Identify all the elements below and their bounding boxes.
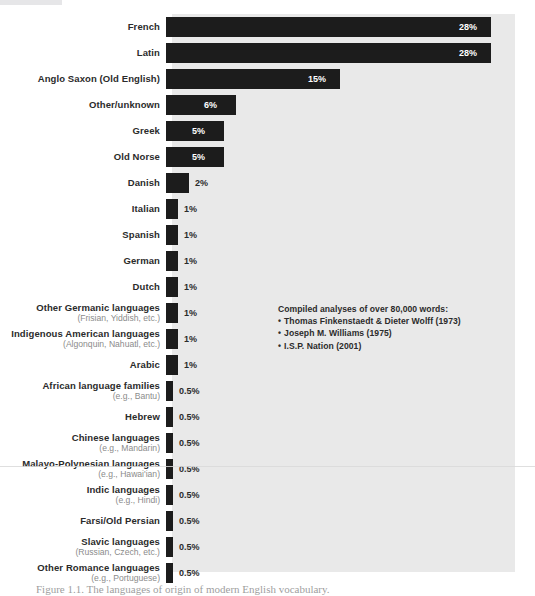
category-label-main: Danish — [0, 178, 160, 188]
category-label: Danish — [0, 178, 166, 188]
bar-row: Latin28% — [0, 40, 535, 66]
category-label-main: French — [0, 22, 160, 32]
bar-row: Arabic1% — [0, 352, 535, 378]
category-label-sub: (Frisian, Yiddish, etc.) — [0, 314, 160, 323]
category-label: Chinese languages(e.g., Mandarin) — [0, 433, 166, 452]
category-label: Other Romance languages(e.g., Portuguese… — [0, 563, 166, 582]
bar-row: German1% — [0, 248, 535, 274]
category-label: Other/unknown — [0, 100, 166, 110]
category-label: Italian — [0, 204, 166, 214]
bar — [166, 485, 173, 505]
bar — [166, 43, 491, 63]
bar-row: Dutch1% — [0, 274, 535, 300]
category-label-main: Hebrew — [0, 412, 160, 422]
bar — [166, 459, 173, 479]
category-label-sub: (e.g., Mandarin) — [0, 444, 160, 453]
bar — [166, 225, 178, 245]
bar-value-label: 1% — [184, 300, 197, 326]
category-label-main: Chinese languages — [0, 433, 160, 443]
category-label-main: Farsi/Old Persian — [0, 516, 160, 526]
category-label-main: Old Norse — [0, 152, 160, 162]
category-label-main: Indigenous American languages — [0, 329, 160, 339]
category-label: Latin — [0, 48, 166, 58]
bar-cell: 1% — [166, 274, 535, 300]
figure-caption: Figure 1.1. The languages of origin of m… — [36, 583, 506, 596]
category-label: Other Germanic languages(Frisian, Yiddis… — [0, 303, 166, 322]
category-label-sub: (e.g., Hindi) — [0, 496, 160, 505]
bar — [166, 277, 178, 297]
source-annotation-item: I.S.P. Nation (2001) — [278, 340, 461, 352]
category-label: French — [0, 22, 166, 32]
category-label-sub: (e.g., Bantu) — [0, 392, 160, 401]
category-label: Farsi/Old Persian — [0, 516, 166, 526]
bar-cell: 15% — [166, 66, 535, 92]
category-label-main: Dutch — [0, 282, 160, 292]
bar — [166, 355, 178, 375]
category-label: Hebrew — [0, 412, 166, 422]
bar-value-label: 1% — [184, 196, 197, 222]
bar-row: Danish2% — [0, 170, 535, 196]
bar-row: Chinese languages(e.g., Mandarin)0.5% — [0, 430, 535, 456]
category-label-main: Anglo Saxon (Old English) — [0, 74, 160, 84]
bar — [166, 381, 173, 401]
bar-cell: 0.5% — [166, 430, 535, 456]
bar — [166, 251, 178, 271]
bar-cell: 2% — [166, 170, 535, 196]
bar-row: Malayo-Polynesian languages(e.g., Hawai'… — [0, 456, 535, 482]
bar — [166, 433, 173, 453]
bar-value-label: 0.5% — [179, 534, 200, 560]
bar-cell: 0.5% — [166, 378, 535, 404]
bar-row: Spanish1% — [0, 222, 535, 248]
bar-cell: 0.5% — [166, 508, 535, 534]
category-label: German — [0, 256, 166, 266]
bar — [166, 17, 491, 37]
category-label-main: Latin — [0, 48, 160, 58]
category-label: Greek — [0, 126, 166, 136]
bar-row: Farsi/Old Persian0.5% — [0, 508, 535, 534]
bar-value-label: 1% — [184, 222, 197, 248]
category-label: Indigenous American languages(Algonquin,… — [0, 329, 166, 348]
bar-cell: 0.5% — [166, 404, 535, 430]
bar-value-label: 1% — [184, 352, 197, 378]
category-label-main: Italian — [0, 204, 160, 214]
bar-value-label: 5% — [192, 144, 205, 170]
bar-row: Old Norse5% — [0, 144, 535, 170]
bar-cell: 1% — [166, 352, 535, 378]
category-label-main: Greek — [0, 126, 160, 136]
bar — [166, 407, 173, 427]
bar-cell: 0.5% — [166, 482, 535, 508]
category-label: Indic languages(e.g., Hindi) — [0, 485, 166, 504]
bar — [166, 199, 178, 219]
bar-cell: 5% — [166, 144, 535, 170]
category-label: African language families(e.g., Bantu) — [0, 381, 166, 400]
source-annotation-heading: Compiled analyses of over 80,000 words: — [278, 303, 461, 315]
category-label-sub: (e.g., Hawai'ian) — [0, 470, 160, 479]
source-annotation-item: Thomas Finkenstaedt & Dieter Wolff (1973… — [278, 315, 461, 327]
bar — [166, 537, 173, 557]
bar — [166, 511, 173, 531]
scanner-line-artifact — [0, 466, 535, 467]
bar — [166, 303, 178, 323]
bar-row: Other/unknown6% — [0, 92, 535, 118]
category-label: Anglo Saxon (Old English) — [0, 74, 166, 84]
bar-value-label: 1% — [184, 326, 197, 352]
category-label: Spanish — [0, 230, 166, 240]
bar-value-label: 0.5% — [179, 508, 200, 534]
bar — [166, 95, 236, 115]
bar-value-label: 28% — [459, 40, 477, 66]
bar-cell: 28% — [166, 40, 535, 66]
bar-value-label: 1% — [184, 274, 197, 300]
source-annotation-list: Thomas Finkenstaedt & Dieter Wolff (1973… — [278, 315, 461, 352]
source-annotation: Compiled analyses of over 80,000 words: … — [278, 303, 461, 352]
bar-value-label: 5% — [192, 118, 205, 144]
bar-row: Slavic languages(Russian, Czech, etc.)0.… — [0, 534, 535, 560]
category-label-main: Spanish — [0, 230, 160, 240]
bar-rows-container: French28%Latin28%Anglo Saxon (Old Englis… — [0, 14, 535, 586]
source-annotation-item: Joseph M. Williams (1975) — [278, 327, 461, 339]
category-label-sub: (Russian, Czech, etc.) — [0, 548, 160, 557]
category-label-sub: (e.g., Portuguese) — [0, 574, 160, 583]
bar-value-label: 0.5% — [179, 378, 200, 404]
bar-value-label: 28% — [459, 14, 477, 40]
category-label-main: German — [0, 256, 160, 266]
bar-cell: 1% — [166, 222, 535, 248]
